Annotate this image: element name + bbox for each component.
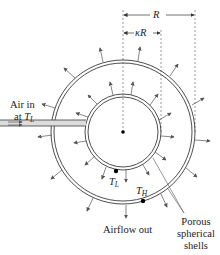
label-T-H: TH bbox=[136, 185, 147, 200]
porous-shells-leader-lines bbox=[153, 158, 184, 213]
label-R: R bbox=[153, 9, 159, 21]
center-point bbox=[121, 130, 125, 134]
air-in-line1: Air in bbox=[10, 99, 35, 111]
label-kappa-R: κR bbox=[135, 27, 146, 39]
air-in-line2: at TL bbox=[14, 111, 35, 126]
dashed-reference-lines bbox=[123, 10, 195, 132]
label-air-in: Air in at TL bbox=[10, 99, 35, 126]
label-porous-shells: Porous spherical shells bbox=[177, 216, 215, 252]
label-T-L: TL bbox=[109, 176, 119, 191]
label-airflow-out: Airflow out bbox=[103, 224, 152, 236]
label-kappa-R-text: κR bbox=[135, 27, 146, 38]
T-L-point bbox=[114, 169, 118, 173]
